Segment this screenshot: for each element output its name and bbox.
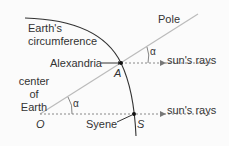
arrowhead-bottom bbox=[160, 111, 166, 117]
point-s-label: S bbox=[137, 118, 144, 131]
center-line-3: Earth bbox=[4, 101, 64, 114]
sun-rays-top-label: sun's rays bbox=[167, 54, 216, 67]
point-o-label: O bbox=[36, 118, 45, 131]
point-s-dot bbox=[132, 112, 136, 116]
syene-pointer bbox=[117, 115, 132, 122]
center-line-1: center bbox=[4, 75, 64, 88]
syene-label: Syene bbox=[86, 118, 117, 131]
center-line-2: of bbox=[4, 88, 64, 101]
pole-label: Pole bbox=[158, 13, 180, 26]
point-a-label: A bbox=[114, 67, 121, 80]
alpha-arc-bottom bbox=[68, 97, 72, 114]
alexandria-label: Alexandria bbox=[50, 57, 102, 70]
alpha-top-label: α bbox=[150, 45, 156, 58]
earth-circumference-label: Earth's circumference bbox=[28, 22, 97, 48]
eratosthenes-diagram: Earth's circumference Pole Alexandria A … bbox=[0, 0, 229, 146]
sun-rays-bottom-label: sun's rays bbox=[167, 104, 216, 117]
circumference-line-1: Earth's bbox=[28, 22, 97, 35]
alpha-arc-top bbox=[147, 47, 149, 63]
point-a-dot bbox=[119, 61, 123, 65]
center-of-earth-label: center of Earth bbox=[4, 75, 64, 114]
circumference-line-2: circumference bbox=[28, 35, 97, 48]
alpha-bottom-label: α bbox=[73, 97, 79, 110]
arrowhead-top bbox=[160, 60, 166, 66]
